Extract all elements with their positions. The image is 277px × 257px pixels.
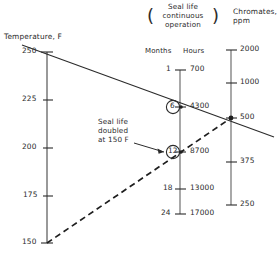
point-6-months: [179, 105, 183, 109]
chromates-tick-1000: 1000: [240, 78, 259, 87]
temperature-tick-225: 225: [22, 95, 37, 104]
temperature-axis: [41, 52, 53, 243]
seal-life-hours-700: 700: [190, 65, 205, 74]
seal-life-axis: [175, 70, 186, 214]
seal-life-hours-13000: 13000: [190, 184, 214, 193]
seal-life-column-months: Months: [145, 47, 172, 56]
seal-life-hours-8700: 8700: [190, 147, 209, 156]
temperature-tick-175: 175: [23, 191, 38, 200]
temperature-axis-title: Temperature, F: [4, 33, 62, 42]
chromates-tick-250: 250: [240, 200, 255, 209]
temperature-tick-250: 250: [22, 47, 37, 56]
seal-life-months-12: 12: [168, 147, 178, 156]
seal-life-nomograph: Temperature, F 250 225 200 175 150 Seal …: [0, 0, 277, 257]
chromates-tick-375: 375: [240, 157, 255, 166]
seal-life-hours-4300: 4300: [190, 102, 209, 111]
seal-life-title-line2: continuous: [150, 12, 216, 20]
doubled-pivot-line: [47, 118, 231, 243]
chromates-title-line2: ppm: [233, 17, 250, 26]
chromates-tick-2000: 2000: [240, 45, 259, 54]
annotation-arrow: [134, 143, 164, 154]
temperature-tick-150: 150: [22, 238, 37, 247]
seal-life-title-line1: Seal life: [150, 3, 216, 11]
chromates-intersection-point: [229, 116, 234, 121]
seal-life-months-1: 1: [166, 65, 171, 74]
seal-life-months-24: 24: [161, 209, 171, 218]
chromates-tick-500: 500: [240, 113, 255, 122]
seal-life-title-line3: operation: [150, 21, 216, 29]
seal-life-column-hours: Hours: [183, 47, 204, 56]
chromates-axis: [226, 50, 237, 205]
seal-life-hours-17000: 17000: [190, 209, 214, 218]
seal-life-paren-open: (: [147, 7, 154, 25]
temperature-tick-200: 200: [22, 143, 37, 152]
seal-life-months-6: 6: [170, 102, 175, 111]
seal-life-months-18: 18: [163, 184, 173, 193]
point-12-months: [179, 150, 183, 154]
annotation-line3: at 150 F: [98, 136, 129, 145]
baseline-pivot-line: [22, 45, 274, 137]
seal-life-paren-close: ): [212, 7, 219, 25]
